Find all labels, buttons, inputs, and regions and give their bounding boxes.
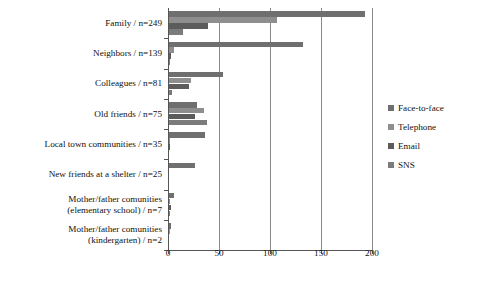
legend-swatch-icon (388, 124, 394, 130)
bar (169, 72, 223, 77)
legend-swatch-icon (388, 143, 394, 149)
bar (169, 211, 170, 216)
category-label: Colleagues / n=81 (0, 78, 162, 89)
bar (169, 223, 171, 228)
value-tick-label: 100 (255, 248, 285, 259)
bar (169, 23, 208, 28)
category-tick-mark (164, 190, 168, 191)
category-label: Local town communities / n=35 (0, 139, 162, 150)
legend-item: SNS (388, 157, 478, 173)
category-label: Neighbors / n=139 (0, 48, 162, 59)
bar (169, 59, 170, 64)
bar (169, 229, 170, 234)
gridline (321, 8, 322, 250)
category-axis-labels: Family / n=249Neighbors / n=139Colleague… (0, 8, 166, 250)
category-tick-mark (164, 38, 168, 39)
legend-label: Email (398, 141, 420, 152)
bar (169, 90, 172, 95)
category-label: Old friends / n=75 (0, 109, 162, 120)
legend-swatch-icon (388, 162, 394, 168)
bar (169, 84, 189, 89)
legend-item: Email (388, 138, 478, 154)
category-label: Mother/father comunities (kindergarten) … (0, 224, 162, 245)
value-tick-label: 50 (204, 248, 234, 259)
bar (169, 144, 170, 149)
bar (169, 199, 170, 204)
chart-legend: Face-to-faceTelephoneEmailSNS (388, 100, 478, 176)
bar (169, 102, 197, 107)
bar (169, 29, 183, 34)
bar (169, 132, 205, 137)
bar (169, 78, 191, 83)
category-tick-mark (164, 129, 168, 130)
category-label: Family / n=249 (0, 18, 162, 29)
bar (169, 193, 174, 198)
category-tick-mark (164, 69, 168, 70)
gridline (372, 8, 373, 250)
category-tick-mark (164, 220, 168, 221)
legend-label: SNS (398, 160, 415, 171)
plot-area (168, 8, 372, 250)
legend-swatch-icon (388, 105, 394, 111)
bar (169, 138, 170, 143)
category-tick-mark (164, 99, 168, 100)
category-tick-mark (164, 159, 168, 160)
bar (169, 163, 195, 168)
bar (169, 205, 171, 210)
bar (169, 53, 171, 58)
category-label: New friends at a shelter / n=25 (0, 169, 162, 180)
value-tick-label: 200 (357, 248, 387, 259)
legend-item: Face-to-face (388, 100, 478, 116)
bar (169, 17, 277, 22)
legend-label: Face-to-face (398, 103, 444, 114)
bar (169, 120, 207, 125)
bar (169, 108, 204, 113)
bar (169, 114, 195, 119)
legend-label: Telephone (398, 122, 436, 133)
bar (169, 11, 365, 16)
bar (169, 47, 174, 52)
category-label: Mother/father comunities (elementary sch… (0, 194, 162, 215)
bar (169, 42, 303, 47)
value-tick-label: 150 (306, 248, 336, 259)
value-tick-label: 0 (153, 248, 183, 259)
grouped-bar-chart: Family / n=249Neighbors / n=139Colleague… (0, 0, 480, 288)
legend-item: Telephone (388, 119, 478, 135)
